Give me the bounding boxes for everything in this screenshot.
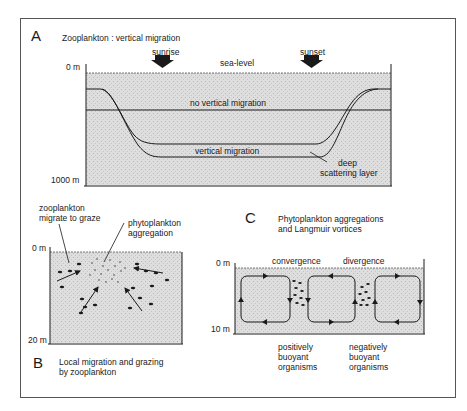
pos-label-3: organisms [278, 362, 317, 372]
zoo-label-2: migrate to graze [39, 213, 100, 223]
panel-c-letter: C [245, 210, 256, 226]
neg-label-1: negatively [349, 342, 387, 352]
dsl-label-2: scattering layer [320, 168, 378, 178]
divergence-label: divergence [343, 256, 385, 266]
sea-level-label: sea-level [220, 58, 254, 68]
neg-label-3: organisms [349, 362, 388, 372]
phyto-label-2: aggregation [128, 228, 173, 238]
panel-b-ocean [48, 223, 183, 344]
migration-label: vertical migration [195, 146, 259, 156]
panel-b-depth-bottom: 20 m [28, 335, 47, 345]
no-migration-label: no vertical migration [190, 98, 266, 108]
phyto-label-1: phytoplankton [128, 218, 181, 228]
pos-label-2: buoyant [278, 352, 308, 362]
pos-label-1: positively [278, 342, 313, 352]
panel-c-title-1: Phytoplankton aggregations [278, 214, 383, 224]
panel-a-depth-top: 0 m [66, 62, 80, 72]
panel-a-depth-bottom: 1000 m [51, 175, 79, 185]
panel-c-depth-bottom: 10 m [211, 324, 230, 334]
sunset-label: sunset [300, 47, 325, 57]
panel-c-depth-top: 0 m [216, 258, 230, 268]
convergence-label: convergence [272, 256, 321, 266]
panel-c-title-2: and Langmuir vortices [278, 224, 362, 234]
panel-b-caption-2: by zooplankton [59, 367, 116, 377]
zoo-label-1: zooplankton [39, 203, 85, 213]
sunrise-label: sunrise [152, 47, 179, 57]
panel-b-letter: B [33, 355, 43, 371]
panel-c-ocean [233, 259, 425, 334]
panel-b-depth-top: 0 m [32, 243, 46, 253]
panel-a-title: Zooplankton : vertical migration [62, 33, 180, 43]
dsl-label-1: deep [338, 158, 357, 168]
panel-b-caption-1: Local migration and grazing [59, 357, 163, 367]
neg-label-2: buoyant [349, 352, 379, 362]
panel-a-letter: A [31, 28, 41, 44]
